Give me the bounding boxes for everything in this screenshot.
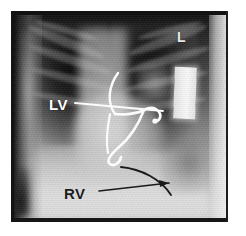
film-edge-left — [11, 11, 14, 222]
rv-label: RV — [64, 185, 86, 202]
pacing-lead-tip-marker — [152, 118, 157, 123]
pacing-lead-upper-curve — [110, 73, 118, 114]
lv-label: LV — [49, 96, 68, 113]
film-edge-bottom — [11, 218, 228, 222]
annotation-overlay — [11, 11, 228, 222]
chest-radiograph-image: LV RV L — [11, 11, 228, 222]
figure-root: LV RV L — [0, 0, 246, 236]
film-edge-right — [226, 11, 228, 222]
side-marker-label: L — [177, 29, 186, 45]
pacing-lead-descending — [108, 110, 144, 165]
rv-border-curve — [121, 167, 171, 195]
film-edge-top — [11, 11, 228, 15]
rv-arrow-line — [99, 183, 169, 191]
pacing-lead-left-tail — [107, 114, 110, 153]
